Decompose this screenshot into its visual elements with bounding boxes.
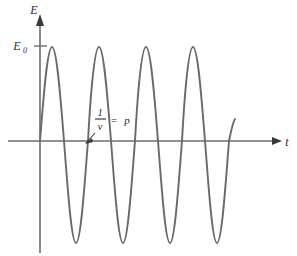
wave-plot-svg: E t E 0 1 ν = p [0,0,297,256]
sine-wave-curve [40,47,235,243]
period-symbol-p: p [123,114,130,126]
wave-figure: E t E 0 1 ν = p [0,0,297,256]
period-fraction-numerator: 1 [97,107,102,118]
period-annotation: 1 ν = p [85,107,130,144]
t-axis-label: t [285,135,289,149]
t-axis-arrowhead [272,137,282,145]
e0-tick-label-subscript: 0 [23,46,27,55]
e0-tick-label: E 0 [12,39,27,55]
period-equals-sign: = [110,114,117,126]
period-fraction-denominator: ν [98,121,103,132]
e-axis-label: E [29,3,38,17]
e0-tick-label-base: E [12,39,21,53]
